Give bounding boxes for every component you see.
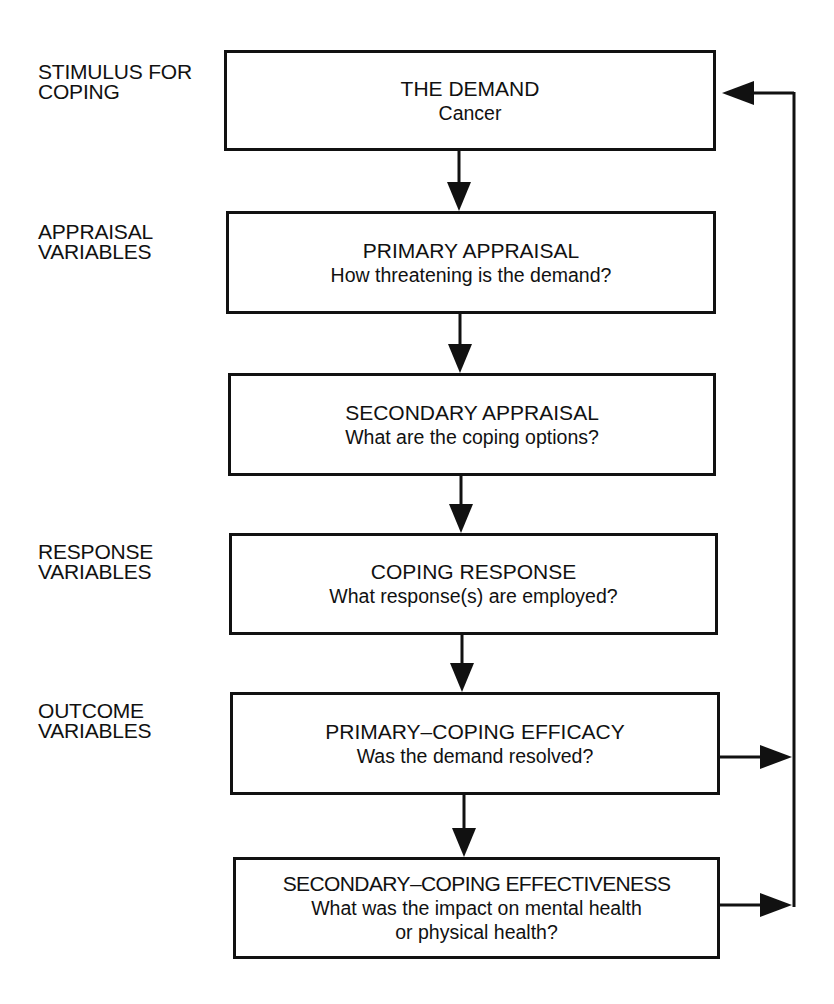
box-title: THE DEMAND xyxy=(401,77,540,101)
box-subtitle: What was the impact on mental health or … xyxy=(311,896,642,944)
box-secondary-appraisal: SECONDARY APPRAISAL What are the coping … xyxy=(228,373,716,476)
arrow-down-icon xyxy=(449,475,473,533)
box-primary-appraisal: PRIMARY APPRAISAL How threatening is the… xyxy=(226,211,716,314)
arrow-down-icon xyxy=(447,150,471,211)
box-secondary-coping-effectiveness: SECONDARY–COPING EFFECTIVENESS What was … xyxy=(233,857,720,959)
arrow-down-icon xyxy=(450,634,474,692)
box-subtitle: What are the coping options? xyxy=(345,425,599,449)
box-title: PRIMARY–COPING EFFICACY xyxy=(325,720,625,744)
box-subtitle: What response(s) are employed? xyxy=(329,584,617,608)
box-subtitle: How threatening is the demand? xyxy=(331,263,612,287)
feedback-loop xyxy=(720,81,794,917)
box-title: PRIMARY APPRAISAL xyxy=(363,239,579,263)
box-primary-coping-efficacy: PRIMARY–COPING EFFICACY Was the demand r… xyxy=(230,692,720,795)
box-subtitle: Was the demand resolved? xyxy=(357,744,594,768)
box-subtitle: Cancer xyxy=(439,101,502,125)
box-title: SECONDARY–COPING EFFECTIVENESS xyxy=(283,872,671,896)
box-demand: THE DEMAND Cancer xyxy=(224,50,716,151)
box-title: COPING RESPONSE xyxy=(371,560,576,584)
box-coping-response: COPING RESPONSE What response(s) are emp… xyxy=(229,533,718,635)
arrow-down-icon xyxy=(448,313,472,373)
arrow-down-icon xyxy=(452,794,476,857)
box-title: SECONDARY APPRAISAL xyxy=(345,401,599,425)
